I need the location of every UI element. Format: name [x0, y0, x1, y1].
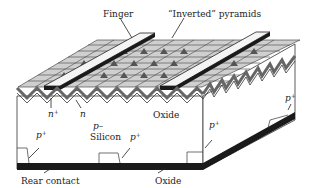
label-inverted-pyramids: “Inverted” pyramids — [168, 9, 262, 19]
label-oxide-top: Oxide — [153, 110, 179, 120]
solar-cell-diagram: Finger “Inverted” pyramids n+ n Oxide p–… — [0, 0, 311, 188]
label-finger: Finger — [103, 9, 134, 19]
label-p-minus: p– — [93, 121, 104, 131]
label-n: n — [80, 109, 86, 119]
label-oxide-bottom: Oxide — [155, 176, 181, 186]
label-rear-contact: Rear contact — [21, 176, 80, 186]
label-silicon: Silicon — [90, 132, 121, 142]
